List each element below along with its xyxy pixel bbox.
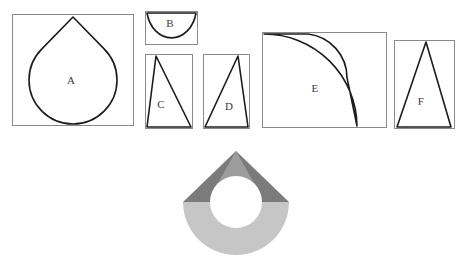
piece-a-group: A xyxy=(13,15,134,126)
piece-c-label: C xyxy=(157,98,165,110)
assembled-teardrop-group xyxy=(183,151,289,255)
piece-e-label: E xyxy=(311,82,318,94)
assembly-center-hole xyxy=(210,176,262,228)
piece-f-label: F xyxy=(418,95,424,107)
figure-canvas: A B C D E F xyxy=(0,0,469,278)
piece-a-label: A xyxy=(67,74,75,86)
piece-b-label: B xyxy=(166,17,174,29)
piece-d-group: D xyxy=(204,55,250,129)
piece-b-group: B xyxy=(146,12,198,45)
piece-f-group: F xyxy=(395,41,455,129)
piece-d-label: D xyxy=(225,100,233,112)
geometry-figure: A B C D E F xyxy=(0,0,469,278)
piece-e-group: E xyxy=(263,33,387,128)
piece-c-group: C xyxy=(146,55,193,129)
